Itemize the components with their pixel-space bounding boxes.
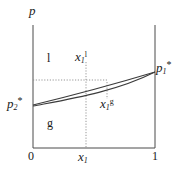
x-tick-label-1: 1 [152, 150, 158, 162]
x-tick-label-x1: x1 [78, 150, 88, 165]
liquidus-curve [33, 72, 155, 105]
x-tick-label-0: 0 [28, 150, 34, 162]
phase-diagram-figure: p p2* p1* x1l x1g l g 0 x1 1 [0, 0, 176, 170]
region-label-liquid: l [47, 52, 50, 64]
x-tick-x1-subscript: 1 [84, 156, 88, 165]
region-label-gas: g [47, 117, 53, 129]
x1-liquid-superscript: l [85, 50, 87, 59]
p1-star-superscript: * [167, 59, 172, 70]
y-axis-label: p [29, 4, 36, 17]
p2-star-label: p2* [7, 96, 23, 112]
x1-liquid-label: x1l [75, 50, 87, 65]
plot-canvas [0, 0, 176, 170]
x1-gas-label: x1g [100, 97, 114, 112]
p1-star-label: p1* [156, 60, 172, 76]
p2-star-superscript: * [18, 95, 23, 106]
x1-gas-superscript: g [110, 97, 114, 106]
